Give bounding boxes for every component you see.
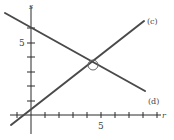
x-axis-label: r	[162, 111, 167, 120]
y-tick-label-5: 5	[19, 38, 25, 48]
series-line-d	[5, 13, 145, 91]
series-label-d: (d)	[148, 97, 159, 106]
y-axis-label: s	[29, 2, 33, 11]
series-label-c: (c)	[147, 17, 158, 26]
x-tick-label-5: 5	[98, 121, 104, 131]
line-chart: s r 5 5 (c) (d)	[0, 0, 174, 140]
